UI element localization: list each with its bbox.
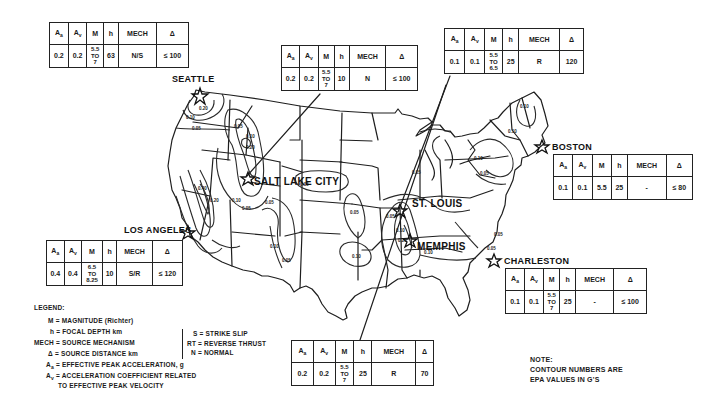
hdr-mech: MECH — [576, 269, 614, 291]
table-seattle: Aa Av M h MECH Δ 0.2 0.2 5.5TO7 63 N/S ≤… — [49, 22, 189, 68]
val-mech: - — [627, 177, 666, 200]
table-charleston: Aa Av M h MECH Δ 0.1 0.1 5.5TO7 25 - ≤ 1… — [505, 268, 647, 314]
svg-text:0.05: 0.05 — [480, 171, 489, 176]
note-line-1: CONTOUR NUMBERS ARE — [530, 365, 623, 375]
val-aa: 0.4 — [47, 263, 65, 286]
hdr-m: M — [82, 241, 103, 263]
city-label-st-louis: ST. LOUIS — [412, 198, 462, 209]
val-m: 5.5TO7 — [335, 363, 354, 386]
val-mech: N — [349, 68, 386, 91]
val-delta: ≤ 100 — [614, 291, 647, 314]
star-charleston — [487, 254, 501, 267]
svg-text:0.05: 0.05 — [487, 246, 496, 251]
svg-text:0.05: 0.05 — [234, 124, 243, 129]
hdr-m: M — [318, 46, 334, 68]
hdr-m: M — [87, 23, 103, 45]
hdr-m: M — [335, 341, 354, 363]
table-salt-lake-city: Aa Av M h MECH Δ 0.2 0.2 5.5TO7 10 N ≤ 1… — [281, 45, 418, 91]
table-boston: Aa Av M h MECH Δ 0.1 0.1 5.5 25 - ≤ 80 — [553, 154, 693, 200]
val-av: 0.2 — [68, 45, 87, 68]
svg-text:0.20: 0.20 — [210, 198, 219, 203]
hdr-h: h — [611, 155, 627, 177]
val-aa: 0.1 — [554, 177, 573, 200]
hdr-mech: MECH — [627, 155, 666, 177]
val-h: 10 — [102, 263, 116, 286]
legend-item-h: h = FOCAL DEPTH km — [50, 327, 122, 338]
val-aa: 0.1 — [445, 51, 465, 74]
note: NOTE: CONTOUR NUMBERS ARE EPA VALUES IN … — [530, 355, 623, 385]
val-delta: ≤ 80 — [666, 177, 692, 200]
hdr-m: M — [592, 155, 611, 177]
val-av: 0.1 — [465, 51, 485, 74]
hdr-aa: Aa — [282, 46, 300, 68]
hdr-av: Av — [465, 29, 485, 51]
hdr-h: h — [103, 23, 118, 45]
svg-text:0.10: 0.10 — [270, 244, 279, 249]
hdr-delta: Δ — [614, 269, 647, 291]
hdr-aa: Aa — [554, 155, 573, 177]
hdr-aa: Aa — [292, 341, 314, 363]
table-st-louis: Aa Av M h MECH Δ 0.1 0.1 5.5TO6.5 25 R 1… — [444, 28, 584, 74]
city-label-seattle: SEATTLE — [172, 74, 214, 84]
hdr-aa: Aa — [50, 23, 69, 45]
hdr-mech: MECH — [349, 46, 386, 68]
svg-text:0.10: 0.10 — [246, 134, 255, 139]
hdr-delta: Δ — [560, 29, 584, 51]
svg-text:0.20: 0.20 — [199, 106, 208, 111]
val-mech: N/S — [119, 45, 157, 68]
legend-item-delta: Δ = SOURCE DISTANCE km — [48, 349, 138, 360]
city-label-salt-lake-city: SALT LAKE CITY — [254, 176, 339, 187]
val-av: 0.4 — [64, 263, 82, 286]
val-mech: R — [519, 51, 560, 74]
svg-text:0.10: 0.10 — [186, 115, 195, 120]
val-aa: 0.2 — [50, 45, 69, 68]
leader-slc — [247, 94, 320, 176]
svg-text:0.10: 0.10 — [396, 228, 405, 233]
hdr-h: h — [560, 269, 576, 291]
hdr-delta: Δ — [152, 241, 182, 263]
star-salt-lake — [241, 172, 255, 185]
table-los-angeles: Aa Av M h MECH Δ 0.4 0.4 6.5TO8.25 10 S/… — [46, 240, 183, 286]
val-h: 25 — [611, 177, 627, 200]
table-memphis: Aa Av M h MECH Δ 0.2 0.2 5.5TO7 25 R 70 — [291, 340, 434, 386]
hdr-av: Av — [313, 341, 335, 363]
hdr-mech: MECH — [372, 341, 416, 363]
val-m: 5.5TO7 — [318, 68, 334, 91]
hdr-m: M — [485, 29, 503, 51]
val-mech: - — [576, 291, 614, 314]
svg-text:0.40: 0.40 — [198, 186, 207, 191]
hdr-av: Av — [300, 46, 318, 68]
val-delta: ≤ 100 — [156, 45, 188, 68]
val-av: 0.1 — [573, 177, 592, 200]
note-title: NOTE: — [530, 355, 623, 365]
val-m: 5.5 — [592, 177, 611, 200]
svg-text:0.10: 0.10 — [474, 156, 483, 161]
val-m: 5.5TO6.5 — [485, 51, 503, 74]
val-av: 0.1 — [524, 291, 543, 314]
val-mech: S/R — [117, 263, 152, 286]
hdr-av: Av — [68, 23, 87, 45]
note-line-2: EPA VALUES IN G'S — [530, 375, 623, 385]
svg-text:0.20: 0.20 — [246, 145, 255, 150]
val-mech: R — [372, 363, 416, 386]
val-m: 5.5TO7 — [543, 291, 560, 314]
svg-text:0.05: 0.05 — [192, 126, 201, 131]
val-aa: 0.2 — [282, 68, 300, 91]
hdr-h: h — [502, 29, 519, 51]
val-aa: 0.1 — [506, 291, 525, 314]
hdr-av: Av — [64, 241, 82, 263]
hdr-aa: Aa — [47, 241, 65, 263]
val-aa: 0.2 — [292, 363, 314, 386]
val-h: 10 — [334, 68, 349, 91]
val-av: 0.2 — [313, 363, 335, 386]
legend-title: LEGEND: — [34, 303, 65, 314]
svg-text:0.05: 0.05 — [350, 210, 359, 215]
hdr-delta: Δ — [156, 23, 188, 45]
hdr-mech: MECH — [519, 29, 560, 51]
city-label-charleston: CHARLESTON — [504, 256, 569, 266]
hdr-delta: Δ — [416, 341, 434, 363]
svg-text:0.05: 0.05 — [282, 258, 291, 263]
hdr-delta: Δ — [386, 46, 418, 68]
star-boston — [535, 140, 549, 153]
val-delta: 120 — [560, 51, 584, 74]
